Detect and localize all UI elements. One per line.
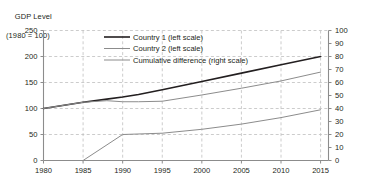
plot-area: 050100150200250 0102030405060708090100 1… <box>0 0 366 184</box>
x-axis-tick-label: 1980 <box>35 166 52 175</box>
legend-label-3: Cumulative difference (right scale) <box>133 56 249 65</box>
y-axis-right-labels: 0102030405060708090100 <box>335 26 348 165</box>
y-axis-right-tick-label: 40 <box>335 104 343 113</box>
y-axis-left-labels: 050100150200250 <box>25 26 38 165</box>
chart-legend: Country 1 (left scale)Country 2 (left sc… <box>104 33 249 65</box>
y-axis-left-tick-label: 100 <box>25 104 38 113</box>
series-layer <box>44 57 321 161</box>
x-axis-tick-label: 1990 <box>114 166 131 175</box>
x-axis-tick-label: 2010 <box>273 166 290 175</box>
x-axis-tick-label: 2005 <box>233 166 250 175</box>
y-axis-left-tick-label: 250 <box>25 26 38 35</box>
y-axis-right-tick-label: 100 <box>335 26 348 35</box>
y-axis-right-tick-label: 50 <box>335 91 343 100</box>
series-line-2 <box>44 72 321 108</box>
y-axis-left-tick-label: 200 <box>25 52 38 61</box>
y-axis-left-tick-label: 150 <box>25 78 38 87</box>
y-axis-left-tick-label: 0 <box>33 156 37 165</box>
legend-label-2: Country 2 (left scale) <box>133 44 204 53</box>
y-axis-right-tick-label: 10 <box>335 143 343 152</box>
x-axis-tick-label: 2000 <box>193 166 210 175</box>
y-axis-right-tick-label: 60 <box>335 78 343 87</box>
y-axis-left-tick-label: 50 <box>29 130 37 139</box>
y-axis-right-tick-label: 0 <box>335 156 339 165</box>
y-axis-right-tick-label: 80 <box>335 52 343 61</box>
x-axis-labels: 19801985199019952000200520102015 <box>35 166 329 175</box>
x-axis-tick-label: 2015 <box>312 166 329 175</box>
y-axis-right-tick-label: 30 <box>335 117 343 126</box>
x-axis-tick-label: 1995 <box>154 166 171 175</box>
x-axis-tick-label: 1985 <box>75 166 92 175</box>
y-axis-right-tick-label: 90 <box>335 39 343 48</box>
y-axis-right-tick-label: 20 <box>335 130 343 139</box>
legend-label-1: Country 1 (left scale) <box>133 33 204 42</box>
y-axis-right-tick-label: 70 <box>335 65 343 74</box>
gdp-level-chart: GDP Level (1980 = 100) 050100150200250 0… <box>0 0 366 184</box>
